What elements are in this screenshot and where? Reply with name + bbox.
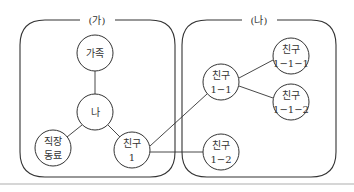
edge-me-friend1	[108, 125, 120, 137]
node-friend1-1-label-1: 친구	[212, 70, 230, 81]
node-coworker: 직장 동료	[35, 130, 71, 166]
node-family: 가족	[77, 35, 113, 71]
node-friend1-1-1-label-1: 친구	[282, 44, 300, 55]
edge-friend1-friend1-1	[150, 94, 207, 146]
node-friend1: 친구 1	[114, 132, 150, 168]
node-friend1-1-2-label-2: 1−1−2	[273, 104, 309, 115]
node-me: 나	[77, 94, 113, 130]
edge-friend1-1-friend1-1-2	[239, 86, 273, 98]
edge-me-coworker	[67, 125, 82, 137]
bottom-divider	[0, 183, 354, 185]
node-friend1-1-2: 친구 1−1−2	[273, 84, 309, 120]
group-na-label: (나)	[251, 15, 268, 26]
group-ga-label: (가)	[89, 15, 106, 26]
node-friend1-label-2: 1	[129, 152, 135, 163]
node-coworker-label-2: 동료	[44, 150, 62, 161]
edge-friend1-1-friend1-1-1	[239, 60, 273, 78]
node-coworker-label-1: 직장	[44, 136, 62, 147]
node-friend1-1-1-label-2: 1−1−1	[273, 58, 309, 69]
node-friend1-1-1: 친구 1−1−1	[273, 38, 309, 74]
node-friend1-1: 친구 1−1	[203, 64, 239, 100]
node-friend1-1-2-label-1: 친구	[282, 90, 300, 101]
social-network-diagram: (가) (나) 가족 나 직장 동료 친구 1 친구 1−1 친구	[0, 0, 354, 192]
node-friend1-1-label-2: 1−1	[210, 84, 231, 95]
node-friend1-2: 친구 1−2	[203, 134, 239, 170]
node-friend1-2-label-2: 1−2	[210, 154, 231, 165]
node-family-label: 가족	[86, 48, 104, 59]
node-friend1-2-label-1: 친구	[212, 140, 230, 151]
node-me-label: 나	[91, 107, 100, 118]
node-friend1-label-1: 친구	[123, 138, 141, 149]
